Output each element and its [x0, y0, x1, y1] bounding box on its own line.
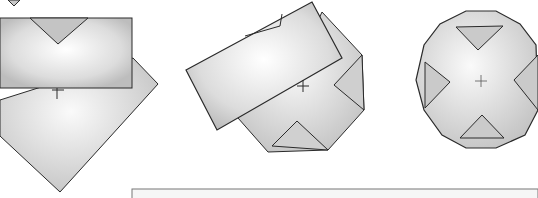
- step-3-figure: [416, 11, 538, 148]
- caption-box: [132, 189, 538, 198]
- step-2-figure: [186, 2, 364, 152]
- origami-diagram: [0, 0, 538, 198]
- top-point: [8, 0, 20, 6]
- step-1-figure: [0, 0, 158, 192]
